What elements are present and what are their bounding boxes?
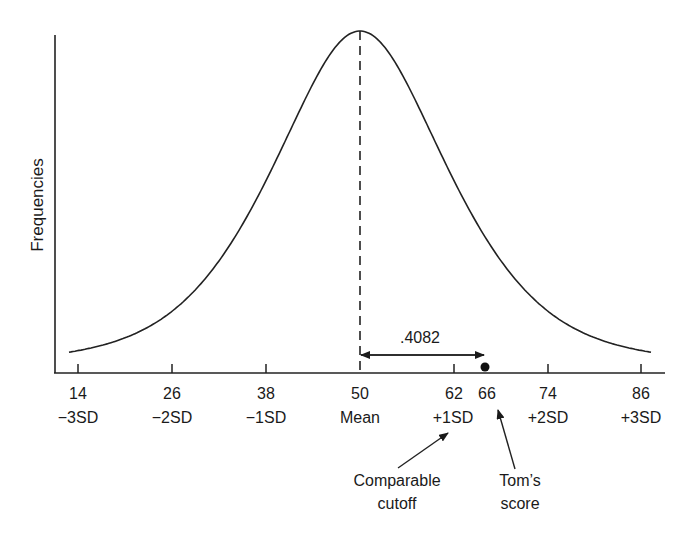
score-pointer-arrow <box>498 410 515 469</box>
y-axis-label: Frequencies <box>28 158 47 252</box>
toms-score-dot <box>481 363 490 372</box>
tick-value-62: 62 <box>445 385 463 402</box>
tick-sd-minus2: −2SD <box>152 409 192 426</box>
tick-value-26: 26 <box>163 385 181 402</box>
score-label-line1: Tom’s <box>499 472 541 489</box>
tick-sd-minus3: −3SD <box>58 409 98 426</box>
tick-sd-plus3: +3SD <box>621 409 661 426</box>
tick-value-66: 66 <box>478 385 496 402</box>
distance-label: .4082 <box>400 329 440 346</box>
cutoff-label-line2: cutoff <box>378 495 417 512</box>
tick-sd-minus1: −1SD <box>246 409 286 426</box>
tick-sd-plus2: +2SD <box>528 409 568 426</box>
cutoff-pointer-arrow <box>398 433 448 468</box>
tick-sd-plus1: +1SD <box>433 409 473 426</box>
tick-value-74: 74 <box>539 385 557 402</box>
tick-value-86: 86 <box>632 385 650 402</box>
tick-sd-mean: Mean <box>340 409 380 426</box>
tick-value-14: 14 <box>69 385 87 402</box>
cutoff-label-line1: Comparable <box>353 472 440 489</box>
normal-distribution-chart: Frequencies 14 26 38 50 62 66 74 86 −3SD… <box>0 0 693 539</box>
tick-value-38: 38 <box>257 385 275 402</box>
score-label-line2: score <box>500 495 539 512</box>
tick-value-50: 50 <box>351 385 369 402</box>
